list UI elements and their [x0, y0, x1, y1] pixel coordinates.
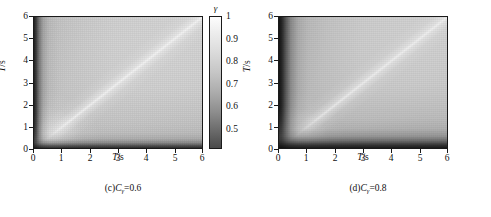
y-tick-label: 5 — [16, 34, 28, 42]
y-axis-title: T/s — [242, 60, 252, 72]
panel-d: 0 1 2 3 4 5 6 0 1 2 3 4 5 6 T/s T/s γ — [245, 0, 491, 217]
heatmap-plot-c — [33, 16, 203, 149]
x-axis-title-unit: /s — [362, 152, 368, 162]
y-tick-mark — [274, 38, 278, 39]
colorbar-tick-label: 0.5 — [226, 125, 238, 133]
y-tick-mark — [29, 149, 33, 150]
caption-prefix: (c) — [105, 183, 116, 193]
y-tick-label: 2 — [261, 101, 273, 109]
y-tick-label: 0 — [261, 145, 273, 153]
panel-caption-d: (d)Cγ=0.8 — [245, 183, 491, 194]
y-axis-title-unit: /s — [242, 60, 252, 66]
y-axis-title-unit: /s — [0, 60, 7, 66]
y-axis-title: T/s — [0, 60, 7, 72]
y-tick-mark — [274, 127, 278, 128]
colorbar-gradient — [210, 17, 221, 148]
x-axis-title: T/s — [278, 152, 448, 162]
y-tick-mark — [29, 127, 33, 128]
y-tick-mark — [274, 105, 278, 106]
y-tick-label: 6 — [16, 12, 28, 20]
colorbar-tick-label: 0.6 — [226, 102, 238, 110]
y-tick-mark — [29, 60, 33, 61]
colorbar-tick-label: 0.8 — [226, 57, 238, 65]
caption-prefix: (d) — [349, 183, 360, 193]
plot-wrap-c: 0 1 2 3 4 5 6 0 1 2 3 4 5 6 — [33, 16, 203, 149]
x-axis-title-unit: /s — [117, 152, 123, 162]
y-tick-label: 3 — [16, 79, 28, 87]
colorbar-tick-label: 0.7 — [226, 80, 238, 88]
y-tick-label: 4 — [16, 56, 28, 64]
y-tick-mark — [29, 83, 33, 84]
heatmap-raster-noise — [279, 17, 447, 148]
heatmap-image-c — [34, 17, 202, 148]
colorbar-title: γ — [209, 3, 222, 13]
y-tick-mark — [29, 38, 33, 39]
heatmap-raster-noise — [34, 17, 202, 148]
y-tick-label: 1 — [261, 123, 273, 131]
y-tick-label: 5 — [261, 34, 273, 42]
y-tick-mark — [274, 60, 278, 61]
y-tick-mark — [274, 83, 278, 84]
figure-two-panel-heatmaps: 0 1 2 3 4 5 6 0 1 2 3 4 5 6 T/s T/s — [0, 0, 491, 217]
panel-c: 0 1 2 3 4 5 6 0 1 2 3 4 5 6 T/s T/s — [0, 0, 246, 217]
y-tick-label: 6 — [261, 12, 273, 20]
y-tick-mark — [29, 105, 33, 106]
panel-caption-c: (c)Cγ=0.6 — [0, 183, 246, 194]
y-axis-title-symbol: T — [242, 67, 252, 72]
y-tick-label: 1 — [16, 123, 28, 131]
colorbar-tick-label: 0.9 — [226, 35, 238, 43]
y-tick-label: 4 — [261, 56, 273, 64]
colorbar-tick-label: 1 — [226, 12, 231, 20]
y-tick-label: 3 — [261, 79, 273, 87]
caption-value: =0.6 — [124, 183, 141, 193]
y-tick-mark — [274, 149, 278, 150]
y-tick-label: 2 — [16, 101, 28, 109]
heatmap-image-d — [279, 17, 447, 148]
caption-value: =0.8 — [369, 183, 386, 193]
y-tick-mark — [29, 16, 33, 17]
colorbar-strip — [209, 16, 222, 149]
y-tick-mark — [274, 16, 278, 17]
y-axis-title-symbol: T — [0, 67, 7, 72]
x-axis-title: T/s — [33, 152, 203, 162]
plot-wrap-d: 0 1 2 3 4 5 6 0 1 2 3 4 5 6 — [278, 16, 448, 149]
heatmap-plot-d — [278, 16, 448, 149]
y-tick-label: 0 — [16, 145, 28, 153]
